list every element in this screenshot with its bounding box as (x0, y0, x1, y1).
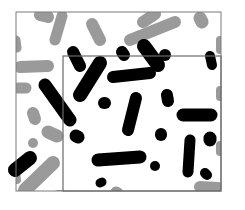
grey-cell (33, 113, 35, 119)
grey-cell (55, 16, 62, 40)
grey-cell (143, 14, 155, 22)
black-cell (167, 95, 168, 101)
black-cell (205, 173, 207, 175)
black-cell (128, 98, 136, 130)
grey-cell (20, 66, 48, 67)
black-cell (210, 56, 212, 65)
black-cell (122, 52, 124, 55)
black-cell (188, 140, 190, 172)
grey-cell (48, 132, 57, 136)
grey-cell (200, 187, 218, 188)
black-cell (98, 157, 140, 160)
grey-cell (40, 15, 48, 17)
black-cell (15, 158, 30, 170)
microscopy-image (0, 0, 245, 210)
grey-cell (200, 18, 202, 22)
image-canvas (0, 0, 245, 210)
grey-cell (92, 24, 100, 40)
black-cell (113, 73, 150, 77)
black-cell (100, 182, 102, 183)
black-cell (73, 52, 80, 66)
black-cell (76, 136, 78, 137)
